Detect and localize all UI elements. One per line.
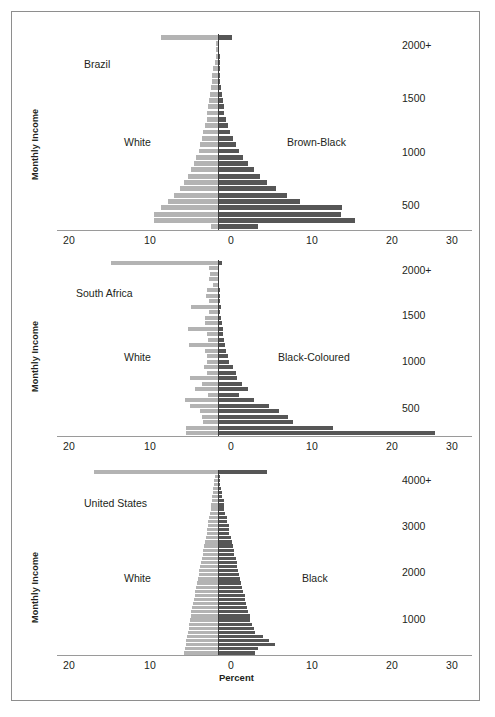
bar-left [208,524,218,527]
bar-right [218,136,233,141]
bar-right [218,398,254,402]
bar-right [218,590,243,593]
bar-right [218,643,275,646]
bar-left [202,382,218,386]
bar-left [209,98,218,103]
xtick-panel1-1: 10 [130,234,170,246]
bar-left [154,212,218,217]
bar-left [94,470,218,473]
bar-left [205,349,218,353]
bar-left [206,294,218,298]
bar-right [218,512,225,515]
bar-left [205,123,218,128]
x-axis-line-panel3 [57,655,472,656]
bar-right [218,598,245,601]
figure-frame: Monthly Income Brazil White Brown-Black … [11,11,480,701]
bar-left [209,266,218,270]
bar-left [207,111,218,116]
bar-left [186,639,218,642]
bar-right [218,376,237,380]
bar-left [209,310,218,314]
bar-left [195,594,218,597]
bar-left [203,420,218,424]
ytick-panel2-3: 500 [402,402,420,414]
bar-right [218,561,237,564]
bar-right [218,544,233,547]
bar-left [204,365,218,369]
bar-left [191,305,218,309]
ytick-panel2-0: 2000+ [402,264,432,276]
bar-left [200,142,218,147]
xtick-panel2-2: 0 [211,440,251,452]
bar-right [218,614,250,617]
bar-right [218,581,241,584]
xtick-panel2-1: 10 [130,440,170,452]
bar-right [218,199,300,204]
xtick-panel1-5: 30 [432,234,472,246]
bar-left [189,343,218,347]
bar-right [218,142,236,147]
ytick-panel2-1: 1500 [402,309,425,321]
bar-left [168,199,218,204]
bar-right [218,639,269,642]
xtick-panel1-4: 20 [372,234,412,246]
bar-left [202,557,218,560]
bar-left [186,426,218,430]
bar-left [207,332,218,336]
bar-left [187,635,218,638]
bar-right [218,536,231,539]
panel-brazil: Monthly Income Brazil White Brown-Black … [12,20,479,245]
bar-right [218,520,227,523]
bar-left [205,321,218,325]
ytick-panel3-0: 4000+ [402,474,432,486]
bar-right [218,409,279,413]
ytick-panel1-1: 1500 [402,92,425,104]
xtick-panel3-0: 20 [49,659,89,671]
bars-panel2 [12,250,479,454]
ytick-panel1-0: 2000+ [402,39,432,51]
bar-left [196,586,218,589]
bar-left [200,409,218,413]
bar-left [207,354,218,358]
xtick-panel1-3: 10 [292,234,332,246]
bar-left [202,136,218,141]
xtick-panel2-0: 20 [49,440,89,452]
bar-left [199,569,218,572]
bar-right [218,565,237,568]
bar-left [210,512,218,515]
bar-left [211,507,218,510]
center-axis-line [218,260,219,436]
bar-right [218,540,232,543]
bar-right [218,349,226,353]
bar-right [218,155,243,160]
bar-left [190,376,218,380]
bar-right [218,594,245,597]
bar-right [218,224,258,229]
ytick-panel1-2: 1000 [402,146,425,158]
bar-right [218,193,287,198]
bar-right [218,573,239,576]
bar-right [218,431,435,435]
bar-right [218,218,355,223]
bar-left [194,598,218,601]
bar-left [199,149,218,154]
bar-left [209,516,218,519]
bar-left [195,387,218,391]
bar-left [193,602,218,605]
bar-left [202,415,218,419]
bar-right [218,387,248,391]
bar-right [218,618,250,621]
bar-left [186,643,218,646]
panel-united-states: Monthly Income United States White Black… [12,458,479,691]
bar-left [209,299,218,303]
bar-left [189,627,218,630]
xtick-panel3-4: 20 [372,659,412,671]
bar-right [218,365,233,369]
bar-left [185,398,218,402]
bar-right [218,647,258,650]
bar-left [186,431,218,435]
x-axis-line-panel2 [57,436,472,437]
bar-left [207,528,218,531]
bar-left [188,174,218,179]
bar-left [200,565,218,568]
